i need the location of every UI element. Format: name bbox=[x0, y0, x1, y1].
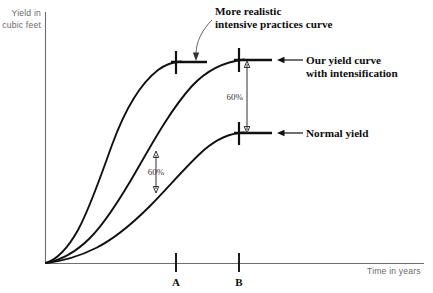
callout-normal-yield: Normal yield bbox=[306, 127, 369, 139]
y-axis-label-line1: Yield in bbox=[12, 8, 41, 18]
callout-our-yield-line1: Our yield curve bbox=[306, 54, 381, 66]
y-axis-label-line2: cubic feet bbox=[2, 20, 41, 30]
annotation-percent-lower: 60% bbox=[148, 167, 165, 177]
yield-curve-figure: A B Yield in cubic feet Time in years 60… bbox=[0, 0, 433, 293]
curve-more-realistic-intensive bbox=[46, 62, 181, 264]
annotation-percent-upper: 60% bbox=[227, 92, 244, 102]
dimension-arrow-upper-60 bbox=[244, 61, 250, 133]
x-tick-label-b: B bbox=[235, 276, 243, 288]
x-axis-label: Time in years bbox=[367, 266, 421, 276]
leader-arrowhead-our-yield-icon bbox=[277, 57, 285, 63]
leader-arrowhead-normal-yield-icon bbox=[277, 130, 285, 136]
callout-realistic-line2: intensive practices curve bbox=[215, 18, 332, 30]
callout-realistic-line1: More realistic bbox=[215, 5, 281, 17]
x-tick-label-a: A bbox=[172, 276, 180, 288]
callout-pointer-realistic-icon bbox=[193, 20, 212, 61]
curve-normal-yield bbox=[46, 133, 244, 264]
callout-our-yield-line2: with intensification bbox=[306, 67, 398, 79]
chart-canvas: A B Yield in cubic feet Time in years 60… bbox=[0, 0, 433, 293]
